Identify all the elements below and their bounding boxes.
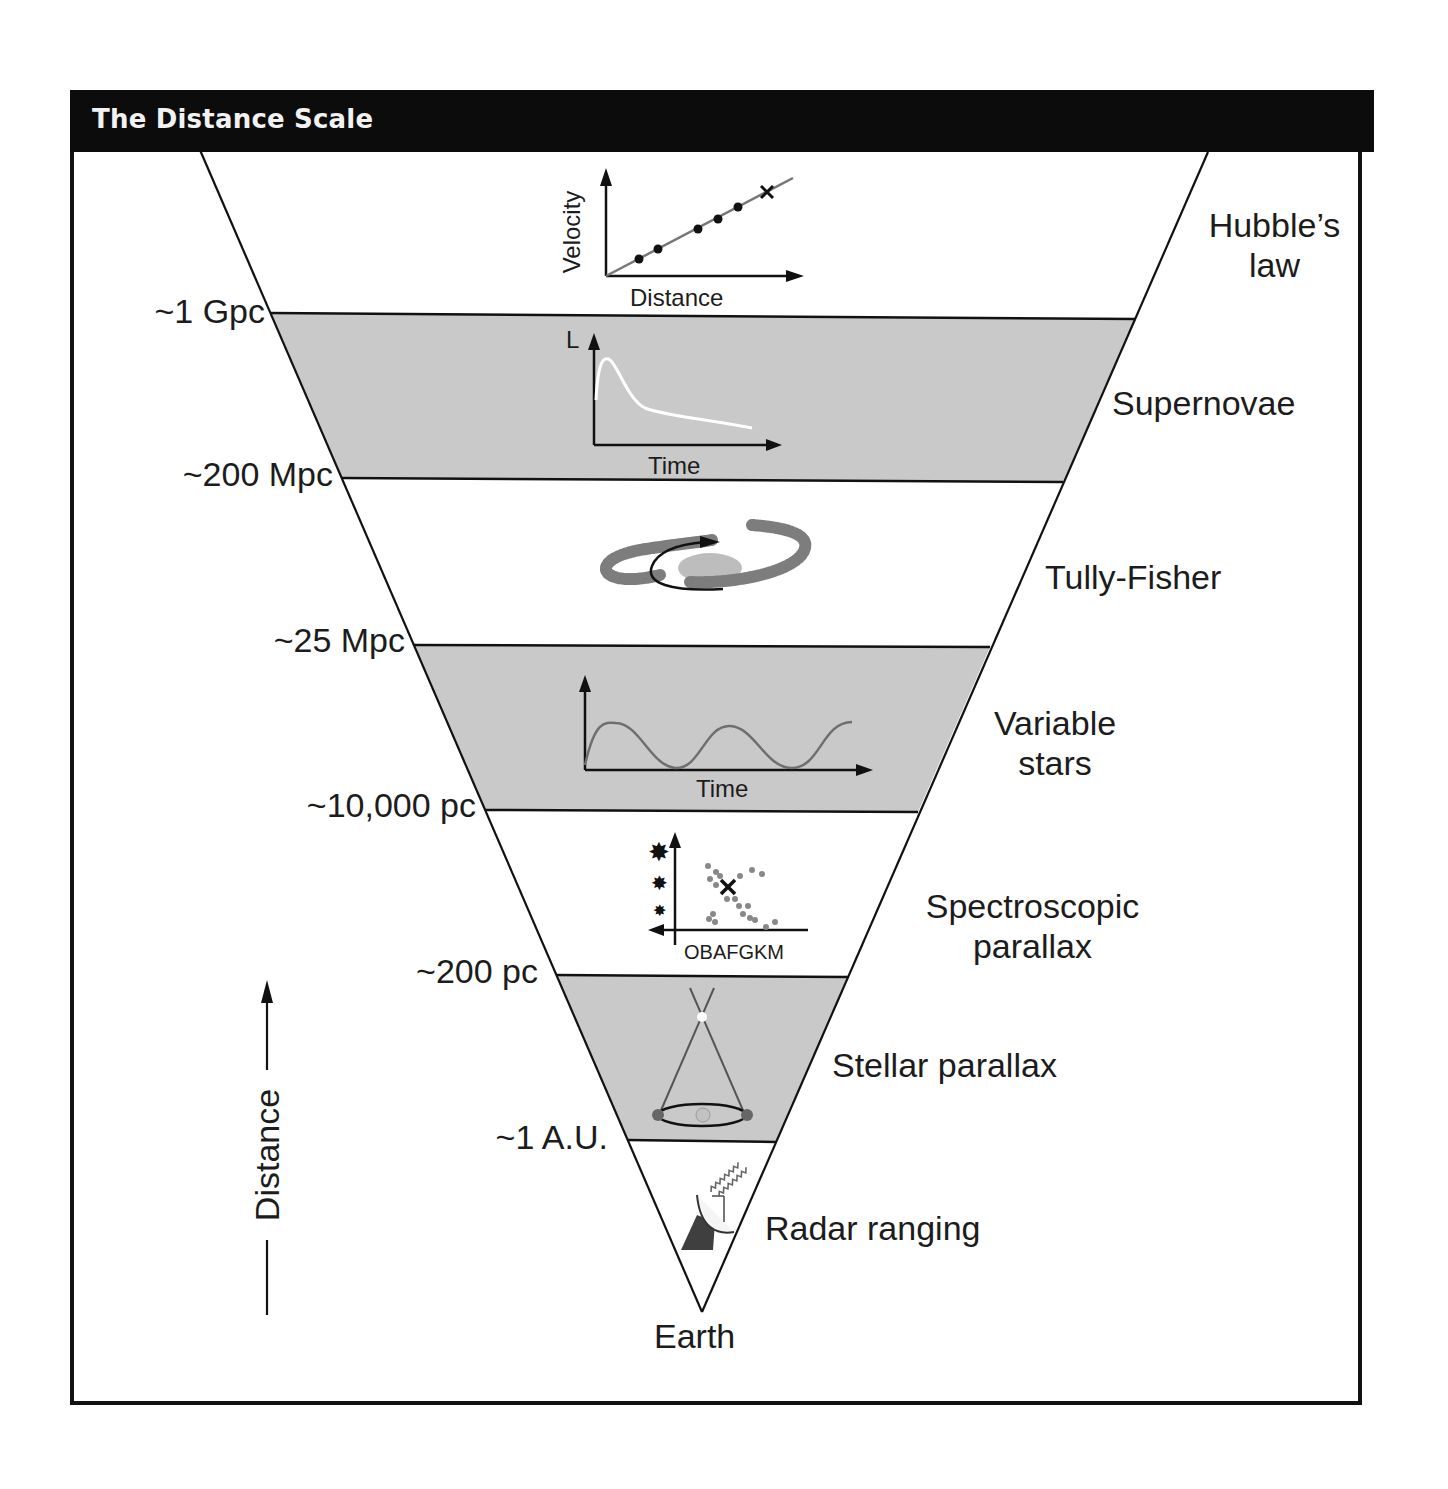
method-label-line: Spectroscopic [900, 886, 1165, 926]
method-label-line: parallax [900, 926, 1165, 966]
hr-xlabel: OBAFGKM [684, 938, 784, 966]
distance-scale-figure: ✸ ✸ ✸ [0, 0, 1448, 1489]
supernova-xlabel: Time [648, 452, 700, 480]
distance-marker-200mpc: ~200 Mpc [183, 454, 333, 494]
hubble-ylabel: Velocity [558, 191, 586, 274]
method-label-spectroscopic-parallax: Spectroscopic parallax [900, 886, 1165, 966]
method-label-hubbles-law: Hubble’s law [1192, 205, 1357, 285]
hubble-xlabel: Distance [630, 284, 723, 312]
method-label-line: Hubble’s [1192, 205, 1357, 245]
figure-title: The Distance Scale [92, 104, 373, 134]
figure-header: The Distance Scale [70, 90, 1374, 152]
method-label-line: stars [975, 743, 1135, 783]
variable-xlabel: Time [696, 775, 748, 803]
method-label-variable-stars: Variable stars [975, 703, 1135, 783]
method-label-tully-fisher: Tully-Fisher [1045, 557, 1221, 597]
method-label-line: Variable [975, 703, 1135, 743]
method-label-radar-ranging: Radar ranging [765, 1208, 980, 1248]
supernova-ylabel: L [566, 326, 579, 354]
distance-marker-200pc: ~200 pc [416, 951, 538, 991]
distance-marker-10000pc: ~10,000 pc [307, 785, 476, 825]
earth-label: Earth [654, 1316, 735, 1356]
distance-axis-label: Distance [247, 1085, 287, 1225]
distance-marker-1au: ~1 A.U. [496, 1117, 608, 1157]
method-label-line: law [1192, 245, 1357, 285]
method-label-stellar-parallax: Stellar parallax [832, 1045, 1057, 1085]
distance-marker-1gpc: ~1 Gpc [154, 291, 265, 331]
method-label-supernovae: Supernovae [1112, 383, 1295, 423]
distance-marker-25mpc: ~25 Mpc [274, 620, 405, 660]
